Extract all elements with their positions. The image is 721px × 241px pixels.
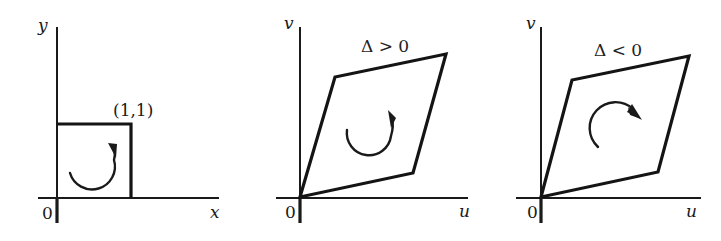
corner-label: (1,1) — [113, 100, 153, 120]
counterclockwise-arrow-icon — [347, 118, 393, 155]
arrowhead-icon — [388, 110, 396, 128]
panel-negative-jacobian: v u 0 Δ < 0 — [516, 13, 701, 223]
y-axis-label: y — [37, 15, 48, 35]
clockwise-arrow-icon — [590, 102, 633, 147]
parallelogram — [541, 56, 689, 197]
v-axis-label: v — [526, 13, 536, 33]
counterclockwise-arrow-icon — [70, 146, 115, 189]
origin-label: 0 — [42, 203, 53, 223]
x-axis-label: x — [210, 202, 220, 222]
condition-label: Δ < 0 — [594, 40, 642, 60]
unit-square — [57, 124, 131, 198]
panel-positive-jacobian: v u 0 Δ > 0 — [276, 13, 470, 223]
u-axis-label: u — [459, 201, 470, 221]
origin-label: 0 — [527, 202, 538, 222]
parallelogram — [300, 54, 446, 197]
arrowhead-icon — [108, 143, 117, 158]
v-axis-label: v — [284, 13, 294, 33]
condition-label: Δ > 0 — [361, 36, 409, 56]
origin-label: 0 — [285, 202, 296, 222]
panel-square-domain: y x 0 (1,1) — [37, 15, 220, 223]
jacobian-orientation-diagram: y x 0 (1,1) v u 0 Δ > 0 v u 0 Δ < 0 — [0, 0, 721, 241]
u-axis-label: u — [686, 201, 697, 221]
